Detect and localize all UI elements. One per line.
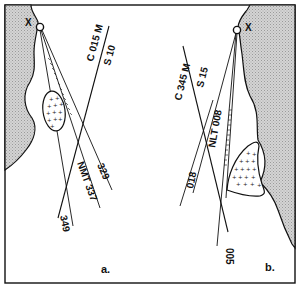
svg-text:+: + — [240, 166, 245, 172]
svg-text:+: + — [245, 158, 250, 164]
tactical-plot-diagram: X ++ +++ +++ +++ + C 015 M S 10 329 NMT — [0, 0, 298, 287]
svg-text:+: + — [251, 174, 256, 180]
svg-text:+: + — [246, 150, 251, 156]
svg-text:+: + — [243, 181, 248, 187]
svg-text:+: + — [58, 109, 63, 115]
svg-text:+: + — [50, 123, 55, 129]
origin-circle-a — [36, 23, 43, 30]
svg-text:+: + — [46, 110, 51, 116]
svg-text:+: + — [236, 181, 241, 187]
svg-text:+: + — [239, 158, 244, 164]
svg-text:+: + — [234, 166, 239, 172]
svg-text:+: + — [59, 101, 64, 107]
origin-marker-a: X — [25, 17, 32, 28]
svg-text:+: + — [250, 181, 255, 187]
speed-label-b: S 15 — [194, 65, 210, 88]
panel-caption-a: a. — [101, 263, 110, 275]
bearing-label-349: 349 — [58, 214, 72, 233]
svg-text:+: + — [58, 116, 63, 122]
panel-b: X ++ +++ ++++ ++++ ++++ C 345 M S 15 NLT… — [172, 5, 295, 273]
panel-a: X ++ +++ +++ +++ + C 015 M S 10 329 NMT — [5, 5, 117, 275]
svg-text:+: + — [252, 166, 257, 172]
bearing-line-005 — [217, 33, 236, 246]
coastline-right — [238, 5, 295, 248]
bearing-label-329: 329 — [95, 161, 112, 181]
course-label-b: C 345 M — [172, 62, 192, 101]
svg-text:+: + — [252, 151, 257, 157]
svg-text:+: + — [257, 182, 262, 188]
bearing-label-018: 018 — [184, 170, 198, 189]
course-line-a — [58, 26, 109, 218]
svg-text:+: + — [238, 174, 243, 180]
origin-marker-b: X — [245, 22, 252, 33]
svg-text:+: + — [251, 158, 256, 164]
svg-text:+: + — [244, 174, 249, 180]
origin-circle-b — [233, 26, 240, 33]
svg-text:+: + — [52, 109, 57, 115]
bearing-line-018-ext — [180, 100, 213, 206]
svg-text:+: + — [246, 166, 251, 172]
svg-text:+: + — [53, 102, 58, 108]
svg-text:+: + — [232, 174, 237, 180]
bearing-label-005: 005 — [224, 248, 235, 265]
course-label-a: C 015 M — [84, 23, 104, 62]
panel-caption-b: b. — [265, 261, 275, 273]
coastline-left — [5, 5, 38, 170]
